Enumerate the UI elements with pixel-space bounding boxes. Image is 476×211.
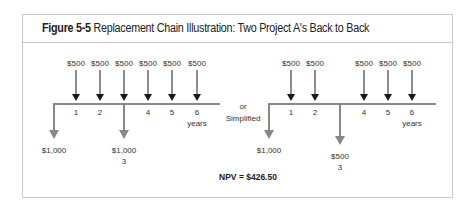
year-tick: 5 (386, 108, 391, 117)
inflow-label: $500 (282, 59, 300, 68)
year-ticks: 1 2 4 5 6 years (289, 108, 422, 128)
inflow-arrow-icon (96, 70, 104, 101)
inflow-arrow-icon (360, 70, 368, 101)
inflow-label: $500 (163, 59, 181, 68)
inflow-arrow-icon (384, 70, 392, 101)
outflow-year-label: 3 (122, 157, 127, 166)
year-tick: 1 (289, 108, 294, 117)
inflow-label: $500 (355, 59, 373, 68)
npv-result: NPV = $426.50 (219, 172, 277, 182)
year-ticks: 1 2 4 5 6 years (74, 108, 207, 128)
outflow-label: $500 (331, 152, 349, 161)
inflow-labels: $500 $500 $500 $500 $500 (282, 59, 421, 68)
inflow-arrows (72, 70, 201, 101)
year-tick: 4 (362, 108, 367, 117)
inflow-label: $500 (115, 59, 133, 68)
cash-flow-diagram: $500 $500 $500 $500 $500 $500 1 2 4 5 6 … (0, 0, 476, 211)
year-tick: 6 (195, 108, 200, 117)
inflow-arrows (287, 70, 416, 101)
years-unit-label: years (187, 119, 207, 128)
year-tick: 5 (170, 108, 175, 117)
outflow-label: $1,000 (257, 146, 282, 155)
simplified-label: Simplified (226, 114, 261, 123)
inflow-arrow-icon (144, 70, 152, 101)
outflow-arrow-icon (264, 104, 274, 139)
outflow-arrow-icon (335, 104, 345, 145)
outflow-label: $1,000 (112, 146, 137, 155)
inflow-arrow-icon (168, 70, 176, 101)
inflow-label: $500 (67, 59, 85, 68)
outflow-arrows (49, 104, 129, 139)
inflow-label: $500 (91, 59, 109, 68)
inflow-label: $500 (188, 59, 206, 68)
inflow-arrow-icon (311, 70, 319, 101)
outflow-arrows (264, 104, 345, 145)
inflow-label: $500 (306, 59, 324, 68)
years-unit-label: years (402, 119, 422, 128)
inflow-labels: $500 $500 $500 $500 $500 $500 (67, 59, 206, 68)
inflow-arrow-icon (287, 70, 295, 101)
left-timeline: $500 $500 $500 $500 $500 $500 1 2 4 5 6 … (42, 59, 220, 166)
inflow-label: $500 (139, 59, 157, 68)
year-tick: 2 (313, 108, 318, 117)
outflow-arrow-icon (49, 104, 59, 139)
year-tick: 4 (146, 108, 151, 117)
or-label: or (239, 102, 246, 111)
outflow-arrow-icon (119, 104, 129, 139)
inflow-label: $500 (403, 59, 421, 68)
inflow-arrow-icon (408, 70, 416, 101)
right-timeline: $500 $500 $500 $500 $500 1 2 4 5 6 years… (257, 59, 436, 172)
year-tick: 1 (74, 108, 79, 117)
year-tick: 2 (98, 108, 103, 117)
inflow-arrow-icon (120, 70, 128, 101)
outflow-year-label: 3 (338, 163, 343, 172)
inflow-arrow-icon (72, 70, 80, 101)
inflow-arrow-icon (193, 70, 201, 101)
year-tick: 6 (410, 108, 415, 117)
inflow-label: $500 (379, 59, 397, 68)
outflow-label: $1,000 (42, 146, 67, 155)
